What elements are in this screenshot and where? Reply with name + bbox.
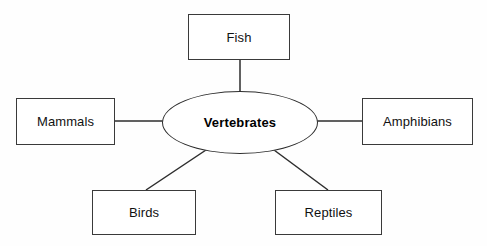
- node-fish-label: Fish: [227, 31, 252, 44]
- node-mammals[interactable]: Mammals: [16, 98, 115, 145]
- connector-center-to-birds: [146, 150, 206, 190]
- node-mammals-label: Mammals: [37, 115, 94, 128]
- node-reptiles[interactable]: Reptiles: [275, 190, 382, 235]
- node-birds[interactable]: Birds: [92, 190, 196, 235]
- node-fish[interactable]: Fish: [188, 14, 290, 60]
- node-center-vertebrates[interactable]: Vertebrates: [162, 91, 318, 154]
- connector-center-to-reptiles: [274, 150, 328, 190]
- node-birds-label: Birds: [129, 206, 159, 219]
- concept-map-diagram: Fish Mammals Amphibians Birds Reptiles V…: [0, 0, 487, 246]
- node-center-label: Vertebrates: [204, 115, 276, 130]
- node-amphibians-label: Amphibians: [383, 115, 452, 128]
- node-amphibians[interactable]: Amphibians: [362, 98, 473, 145]
- node-reptiles-label: Reptiles: [305, 206, 353, 219]
